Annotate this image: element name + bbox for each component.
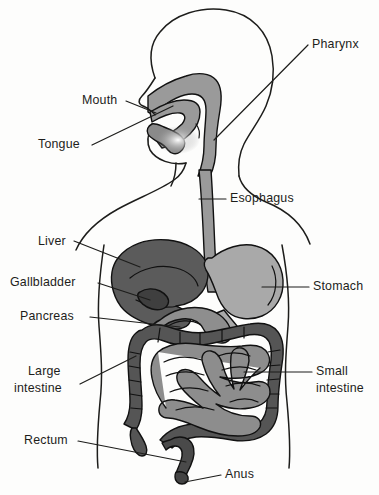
label-pharynx: Pharynx — [312, 37, 359, 51]
torso-left-outline — [97, 245, 104, 468]
label-liver: Liver — [38, 234, 66, 248]
leader-line-anus — [185, 475, 221, 482]
oropharynx-glow — [156, 126, 200, 154]
label-tongue: Tongue — [38, 137, 80, 151]
rectum-organ — [162, 437, 194, 475]
label-rectum: Rectum — [24, 433, 68, 447]
label-anus: Anus — [225, 467, 254, 481]
small-intestine-group — [151, 343, 270, 436]
label-small-intestine-line1: Small — [316, 364, 348, 378]
label-large-intestine-line1: Large — [28, 364, 61, 378]
label-stomach: Stomach — [313, 279, 363, 293]
digestive-system-diagram: Pharynx Mouth Tongue Esophagus Liver Gal… — [0, 0, 379, 495]
label-esophagus: Esophagus — [230, 191, 294, 205]
label-small-intestine-line2: intestine — [316, 381, 364, 395]
label-gallbladder: Gallbladder — [10, 275, 76, 289]
leader-line-pharynx — [214, 45, 308, 140]
neck-front-outline — [76, 163, 186, 250]
label-pancreas: Pancreas — [20, 309, 74, 323]
pharynx-group — [147, 74, 221, 176]
diagram-canvas: Pharynx Mouth Tongue Esophagus Liver Gal… — [0, 0, 379, 495]
leader-line-large-intestine — [80, 356, 136, 384]
neck-back-outline — [239, 176, 310, 244]
chin-crease — [171, 163, 176, 186]
label-mouth: Mouth — [82, 93, 117, 107]
label-large-intestine-line2: intestine — [14, 381, 62, 395]
stomach-organ — [204, 245, 283, 319]
rectum-group — [162, 437, 194, 475]
small-intestine-organ — [151, 343, 270, 436]
